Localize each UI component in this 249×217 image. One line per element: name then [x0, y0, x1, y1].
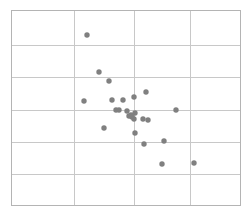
- data-point: [120, 97, 125, 102]
- data-point: [81, 98, 86, 103]
- data-point: [129, 114, 134, 119]
- data-point: [140, 116, 145, 121]
- data-point: [173, 107, 178, 112]
- data-point: [124, 108, 129, 113]
- data-point: [101, 125, 106, 130]
- data-point: [159, 161, 164, 166]
- data-point: [109, 97, 114, 102]
- data-point: [145, 117, 150, 122]
- scatter-plot-figure: [0, 0, 249, 217]
- data-point: [116, 107, 121, 112]
- data-point: [143, 89, 148, 94]
- plot-canvas: [0, 0, 249, 217]
- data-point: [141, 141, 146, 146]
- data-point: [106, 78, 111, 83]
- data-point: [84, 32, 89, 37]
- data-point: [161, 138, 166, 143]
- plot-background: [0, 0, 249, 217]
- data-point: [191, 160, 196, 165]
- data-point: [131, 94, 136, 99]
- data-point: [96, 69, 101, 74]
- data-point: [132, 130, 137, 135]
